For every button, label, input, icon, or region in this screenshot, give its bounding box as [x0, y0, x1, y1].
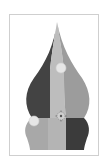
bulb-segment-right[interactable] [66, 118, 89, 150]
control-point-upper-handle[interactable] [56, 63, 66, 73]
onion-dome-shape[interactable] [0, 0, 108, 163]
bulb-segment-center[interactable] [48, 118, 66, 150]
control-point-left-handle[interactable] [29, 116, 39, 126]
